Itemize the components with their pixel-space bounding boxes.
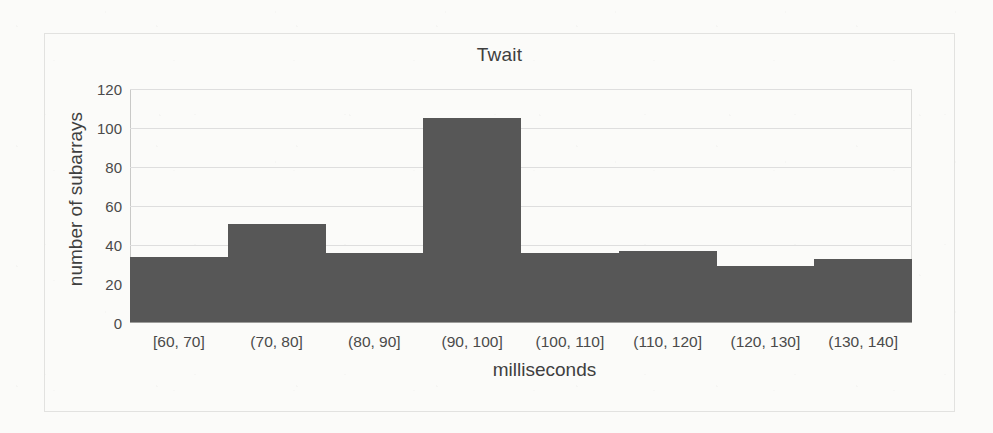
y-axis-tick-label: 20 <box>105 276 122 293</box>
bar-cell <box>130 89 228 323</box>
bar-cell <box>521 89 619 323</box>
x-axis-tick-label: (90, 100] <box>423 333 521 351</box>
bar <box>619 251 717 323</box>
x-axis-line <box>130 322 912 323</box>
y-axis-tick-label: 60 <box>105 198 122 215</box>
y-axis-tick-label: 0 <box>114 315 122 332</box>
chart-frame: Twait number of subarrays 02040608010012… <box>44 33 955 412</box>
bar-cell <box>619 89 717 323</box>
y-axis-tick-label: 100 <box>97 119 122 136</box>
bar <box>423 118 521 323</box>
y-axis-title: number of subarrays <box>63 74 89 324</box>
plot-area: 020406080100120 [60, 70](70, 80](80, 90]… <box>130 89 912 323</box>
x-axis-title: milliseconds <box>135 359 954 381</box>
x-axis-tick-label: (80, 90] <box>326 333 424 351</box>
y-axis-title-label: number of subarrays <box>65 112 87 286</box>
bar <box>717 266 815 323</box>
bar-cell <box>423 89 521 323</box>
bar-cell <box>814 89 912 323</box>
x-axis-tick-label: (130, 140] <box>814 333 912 351</box>
chart-title: Twait <box>45 44 954 66</box>
bar <box>228 224 326 323</box>
x-axis-tick-label: (100, 110] <box>521 333 619 351</box>
bar-cell <box>717 89 815 323</box>
bar <box>521 253 619 323</box>
bar-cell <box>228 89 326 323</box>
x-axis-tick-label: (110, 120] <box>619 333 717 351</box>
y-axis-tick-label: 120 <box>97 81 122 98</box>
bar <box>814 259 912 323</box>
bar-cell <box>326 89 424 323</box>
x-axis-tick-label: [60, 70] <box>130 333 228 351</box>
bar-series <box>130 89 912 323</box>
x-axis-tick-label: (70, 80] <box>228 333 326 351</box>
y-axis-tick-label: 80 <box>105 158 122 175</box>
bar <box>130 257 228 323</box>
bar <box>326 253 424 323</box>
x-axis-tick-label: (120, 130] <box>717 333 815 351</box>
y-axis-tick-label: 40 <box>105 236 122 253</box>
